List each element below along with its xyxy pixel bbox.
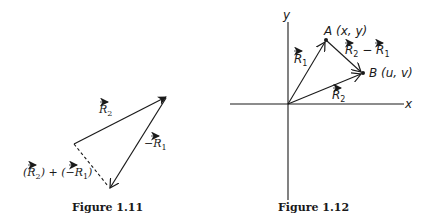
svg-text:R2: R2 [332, 88, 345, 104]
figure-1-11: R2 −R1 (R2) + (−R1) Figure 1.11 [23, 97, 167, 214]
label-r2-minus-r1: R2 − R1 [345, 43, 390, 59]
svg-text:(R2) + (−R1): (R2) + (−R1) [23, 166, 92, 181]
label-neg-r1: −R1 [144, 136, 167, 152]
svg-text:R2 − R1: R2 − R1 [345, 43, 390, 59]
svg-text:R1: R1 [294, 52, 307, 68]
vector-resultant-dashed [74, 144, 108, 186]
y-axis-label: y [282, 8, 291, 22]
point-b [361, 71, 365, 75]
figure-1-12: y x A (x, y) B (u, v) R1 R2 R2 − R1 Figu… [230, 8, 413, 214]
label-r2: R2 [332, 88, 345, 104]
vector-diagrams: R2 −R1 (R2) + (−R1) Figure 1.11 y x A (x… [0, 0, 430, 223]
point-a [324, 38, 328, 42]
vector-r2 [288, 74, 361, 104]
label-r1: R1 [294, 51, 307, 68]
point-a-label: A (x, y) [323, 24, 367, 38]
caption-figure-1-12: Figure 1.12 [278, 201, 349, 214]
label-r2: R2 [98, 102, 112, 118]
caption-figure-1-11: Figure 1.11 [72, 201, 143, 214]
svg-text:−R1: −R1 [144, 137, 167, 152]
x-axis-label: x [404, 97, 413, 111]
label-sum: (R2) + (−R1) [23, 165, 92, 181]
svg-text:R2: R2 [98, 103, 112, 118]
point-b-label: B (u, v) [369, 66, 413, 80]
